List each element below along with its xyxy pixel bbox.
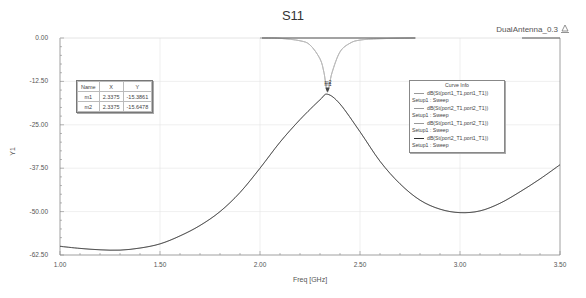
y-tick-label: -25.00 (4, 121, 48, 128)
legend-setup: Setup1 : Sweep (412, 97, 449, 103)
marker-table[interactable]: Name X Y m1 2.3375 -15.3861 m2 2.3375 -1… (76, 80, 153, 113)
x-tick-label: 1.50 (145, 261, 175, 268)
y-tick-label: -62.50 (4, 251, 48, 258)
marker-y: -15.6478 (123, 102, 152, 112)
marker-row-m1: m1 2.3375 -15.3861 (78, 92, 152, 102)
legend-entry[interactable]: dB(St(port1_T1,port1_T1)) Setup1 : Sweep (412, 90, 502, 103)
y-tick-label: -37.50 (4, 164, 48, 171)
marker-x: 2.3375 (99, 92, 123, 102)
svg-text:m2: m2 (325, 79, 332, 85)
legend-trace: dB(St(port2_T1,port1_T1)) (427, 135, 488, 141)
legend-entry[interactable]: dB(St(port2_T1,port2_T1)) Setup1 : Sweep (412, 105, 502, 118)
marker-name: m2 (78, 102, 100, 112)
marker-y: -15.3861 (123, 92, 152, 102)
y-axis-label: Y1 (9, 147, 16, 156)
header-y: Y (123, 82, 152, 92)
x-tick-label: 3.50 (545, 261, 575, 268)
y-tick-label: -12.50 (4, 77, 48, 84)
legend-setup: Setup1 : Sweep (412, 142, 449, 148)
x-tick-label: 1.00 (45, 261, 75, 268)
trace-1 (260, 38, 416, 92)
marker-x: 2.3375 (99, 102, 123, 112)
marker-labels: m1m2 (325, 79, 332, 92)
y-tick-label: -50.00 (4, 208, 48, 215)
trace-line-icon (414, 93, 424, 94)
legend-setup: Setup1 : Sweep (412, 112, 449, 118)
marker-name: m1 (78, 92, 100, 102)
legend-entry[interactable]: dB(St(port1_T1,port2_T1)) Setup1 : Sweep (412, 120, 502, 133)
legend-entry[interactable]: dB(St(port2_T1,port1_T1)) Setup1 : Sweep (412, 135, 502, 148)
y-tick-label: 0.00 (4, 34, 48, 41)
x-axis-label: Freq [GHz] (0, 276, 586, 283)
marker-table-header: Name X Y (78, 82, 152, 92)
x-tick-label: 2.00 (245, 261, 275, 268)
marker-row-m2: m2 2.3375 -15.6478 (78, 102, 152, 112)
trace-0 (260, 38, 416, 91)
curve-info-legend[interactable]: Curve Info dB(St(port1_T1,port1_T1)) Set… (409, 80, 505, 153)
trace-line-icon (414, 138, 424, 139)
legend-trace: dB(St(port1_T1,port1_T1)) (427, 90, 488, 96)
legend-trace: dB(St(port2_T1,port2_T1)) (427, 105, 488, 111)
x-tick-label: 2.50 (345, 261, 375, 268)
header-name: Name (78, 82, 100, 92)
header-x: X (99, 82, 123, 92)
trace-line-icon (414, 108, 424, 109)
legend-setup: Setup1 : Sweep (412, 127, 449, 133)
trace-line-icon (414, 123, 424, 124)
legend-trace: dB(St(port1_T1,port2_T1)) (427, 120, 488, 126)
x-tick-label: 3.00 (445, 261, 475, 268)
legend-title: Curve Info (412, 82, 502, 88)
